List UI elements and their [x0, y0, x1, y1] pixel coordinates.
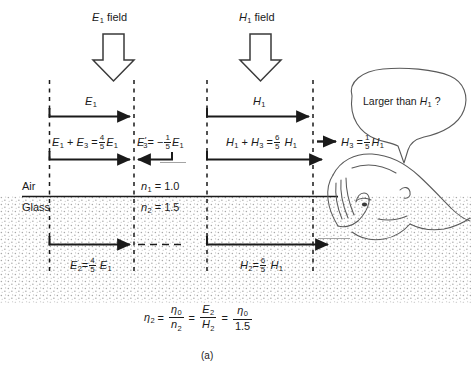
h1-field-block-arrow [240, 34, 281, 81]
n2-index-label: n2 = 1.5 [141, 202, 179, 215]
h1-plus-h3-sum-label: H1 + H3 =65 H1 [226, 134, 297, 151]
h1-incident-label: H1 [253, 96, 265, 109]
eta0-over-n2-fraction: η0 n2 [169, 303, 184, 333]
six-fifths-fraction: 65 [274, 134, 280, 151]
e2-over-h2-fraction: E2 H2 [200, 303, 216, 333]
reference-dashed-lines [50, 80, 314, 272]
eta2-symbol: η2 [144, 311, 155, 325]
four-fifths-fraction: 45 [99, 134, 105, 151]
h1-incident-arrow [207, 108, 309, 117]
four-fifths-fraction: 45 [89, 257, 95, 274]
e1-plus-e3-sum-label: E1 + E3 =45E1 [52, 134, 118, 151]
physics-figure-panel-a: E1 field H1 field E1 H1 E1 + E3 =45E1 E'… [0, 0, 471, 380]
h2-transmitted-label: H2=65 H1 [240, 257, 283, 274]
e3-prime-reflected-label: E'3= −15E1 [137, 134, 184, 151]
six-fifths-fraction: 65 [260, 257, 266, 274]
e1-plus-e3-sum-arrow [50, 151, 131, 160]
speech-bubble-text: Larger than H1 ? [363, 95, 440, 109]
h1-field-source-label: H1 field [239, 12, 275, 25]
glass-medium-label: Glass [22, 202, 50, 213]
e2-transmitted-label: E2=45 E1 [70, 257, 112, 274]
h1-plus-h3-sum-arrow [207, 151, 322, 160]
glass-medium-region [0, 197, 471, 303]
impedance-equation: η2 = η0 n2 = E2 H2 = η0 1.5 [144, 303, 254, 333]
air-medium-label: Air [22, 181, 35, 192]
h3-reflected-label: H3 =15H1 [341, 134, 384, 151]
eta0-over-1point5-fraction: η0 1.5 [233, 304, 252, 332]
one-fifth-fraction: 15 [164, 134, 170, 151]
one-fifth-fraction: 15 [364, 134, 370, 151]
h2-transmitted-arrow [207, 236, 350, 245]
e2-transmitted-arrow [50, 236, 185, 245]
e1-incident-arrow [50, 108, 131, 117]
figure-caption: (a) [201, 350, 213, 361]
e1-field-block-arrow [93, 34, 134, 81]
n1-index-label: n1 = 1.0 [141, 181, 179, 194]
e3-prime-reflected-arrow [138, 152, 186, 163]
cartoon-observer-head [328, 154, 470, 240]
e1-field-source-label: E1 field [92, 12, 127, 25]
e1-incident-label: E1 [85, 96, 97, 109]
